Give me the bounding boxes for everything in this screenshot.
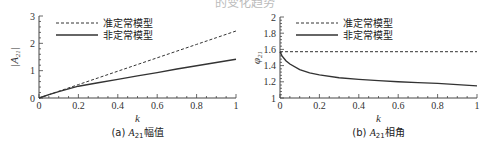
y-tick-label: 1.2: [264, 76, 277, 87]
y-tick-label: 0: [30, 93, 35, 104]
x-tick-label: 0: [278, 100, 283, 111]
legend-label: 准定常模型: [103, 17, 153, 29]
figure: 00.20.40.60.810123准定常模型非定常模型k|A21|(a) A2…: [0, 0, 490, 148]
unsteady-line: [39, 59, 236, 98]
legend-label: 准定常模型: [343, 17, 393, 29]
chart-panel-b: 00.20.40.60.8111.21.41.61.82准定常模型非定常模型kφ…: [250, 12, 480, 141]
y-tick-label: 1.6: [264, 44, 277, 55]
panel-caption: (b) A21相角: [352, 126, 404, 140]
x-tick-label: 0.8: [431, 100, 444, 111]
x-axis-label: k: [376, 112, 382, 124]
y-tick-label: 1: [271, 93, 276, 104]
x-tick-label: 1: [475, 100, 480, 111]
y-tick-label: 1.8: [264, 28, 277, 39]
x-tick-label: 0.4: [112, 100, 125, 111]
x-tick-label: 0.2: [313, 100, 326, 111]
x-tick-label: 0.8: [190, 100, 203, 111]
x-tick-label: 0: [37, 100, 42, 111]
x-tick-label: 0.2: [72, 100, 85, 111]
y-axis-label: |A21|: [8, 47, 22, 67]
x-tick-label: 0.6: [392, 100, 405, 111]
legend-label: 非定常模型: [343, 29, 393, 41]
x-tick-label: 0.6: [151, 100, 164, 111]
legend-label: 非定常模型: [103, 29, 153, 41]
panel-caption: (a) A21幅值: [111, 126, 163, 140]
x-tick-label: 0.4: [353, 100, 366, 111]
x-tick-label: 1: [234, 100, 239, 111]
unsteady-line: [280, 52, 477, 86]
x-axis-label: k: [135, 112, 141, 124]
y-axis-label: φ21: [250, 51, 264, 64]
y-tick-label: 3: [30, 11, 35, 22]
chart-panel-a: 00.20.40.60.810123准定常模型非定常模型k|A21|(a) A2…: [8, 11, 239, 141]
y-tick-label: 2: [271, 12, 276, 23]
y-tick-label: 1.4: [264, 60, 277, 71]
y-tick-label: 1: [30, 65, 35, 76]
y-tick-label: 2: [30, 38, 35, 49]
